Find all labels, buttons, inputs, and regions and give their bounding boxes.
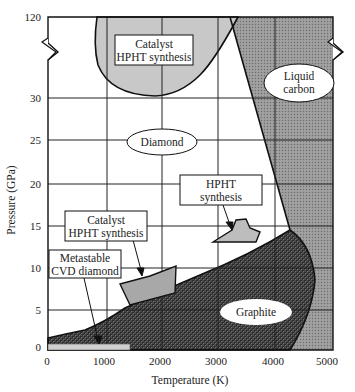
svg-text:20: 20 [30,178,42,190]
label-catalyst-top: Catalyst HPHT synthesis [115,35,193,65]
svg-text:Graphite: Graphite [236,306,276,319]
label-diamond: Diamond [127,129,197,155]
label-catalyst-mid: Catalyst HPHT synthesis [65,211,147,241]
svg-text:Diamond: Diamond [141,136,184,148]
svg-text:CVD diamond: CVD diamond [51,265,119,277]
svg-text:HPHT synthesis: HPHT synthesis [69,227,144,240]
svg-text:0: 0 [36,341,42,353]
svg-text:5000: 5000 [316,355,339,367]
label-hpht-synthesis: HPHT synthesis [180,175,262,205]
svg-text:3000: 3000 [205,355,228,367]
svg-text:Metastable: Metastable [60,252,110,264]
svg-text:15: 15 [30,220,42,232]
svg-text:1000: 1000 [93,355,116,367]
phase-diagram-chart: Catalyst HPHT synthesis Liquid carbon Di… [0,0,355,392]
svg-text:HPHT: HPHT [206,178,236,190]
svg-text:synthesis: synthesis [200,191,243,204]
svg-text:120: 120 [25,11,42,23]
svg-text:HPHT synthesis: HPHT synthesis [117,51,192,64]
svg-text:10: 10 [30,262,42,274]
svg-text:4000: 4000 [262,355,285,367]
hpht-synthesis-region [213,219,260,242]
svg-text:25: 25 [30,134,42,146]
svg-text:2000: 2000 [149,355,172,367]
svg-text:0: 0 [44,355,50,367]
svg-text:Catalyst: Catalyst [135,38,173,51]
svg-text:5: 5 [36,304,42,316]
svg-text:carbon: carbon [283,83,315,95]
svg-text:Liquid: Liquid [284,70,315,83]
svg-text:Catalyst: Catalyst [87,214,125,227]
x-tick-labels: 0 1000 2000 3000 4000 5000 [44,355,338,367]
metastable-cvd-region [48,344,130,350]
label-graphite: Graphite [220,299,292,325]
y-tick-labels: 120 30 25 20 15 10 5 0 [25,11,42,353]
x-axis-title: Temperature (K) [152,374,229,387]
y-axis-title: Pressure (GPa) [5,165,18,234]
svg-text:30: 30 [30,92,42,104]
label-liquid-carbon: Liquid carbon [264,64,334,102]
label-metastable-cvd: Metastable CVD diamond [49,250,121,278]
